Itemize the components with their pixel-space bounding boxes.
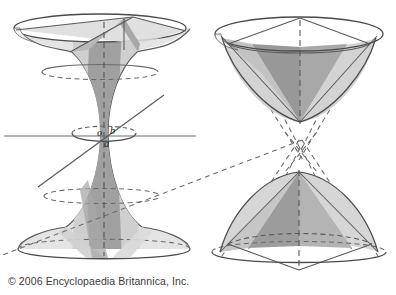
label-semi-axis-b: b [110, 125, 115, 136]
hyperboloid-illustration-svg: o b a [0, 0, 396, 295]
copyright-credit: © 2006 Encyclopaedia Britannica, Inc. [8, 275, 189, 287]
label-semi-axis-a: a [104, 138, 109, 149]
label-origin: o [97, 127, 102, 138]
hyperboloid-figure: o b a [0, 0, 396, 295]
